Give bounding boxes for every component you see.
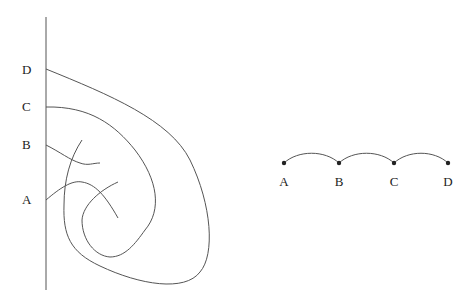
arc-c-d [394,153,448,163]
label-a: A [22,192,32,207]
curve-b [46,145,100,164]
node-label-b: B [335,174,344,189]
curve-d [46,69,209,284]
arc-chain-diagram: A B C D [279,153,452,189]
label-c: C [22,99,31,114]
node-label-a: A [279,174,289,189]
node-a-dot [282,161,286,165]
curve-diagram: D C B A [22,17,209,290]
diagram-canvas: D C B A A B C D [0,0,472,304]
curve-c [46,107,155,257]
label-b: B [22,137,31,152]
node-d-dot [446,161,450,165]
node-c-dot [392,161,396,165]
node-label-d: D [443,174,452,189]
node-label-c: C [390,174,399,189]
arc-a-b [284,153,339,163]
left-labels: D C B A [22,62,32,207]
arc-b-c [339,153,394,163]
node-b-dot [337,161,341,165]
label-d: D [22,62,31,77]
